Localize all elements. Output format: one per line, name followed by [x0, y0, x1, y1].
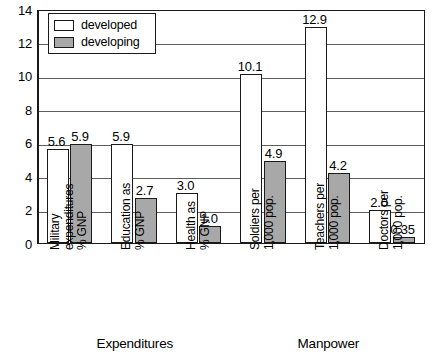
legend-label-developing: developing [81, 36, 139, 49]
legend-item-developing: developing [54, 35, 150, 50]
category-label-line: Soldiers per [249, 188, 263, 250]
category-label-line: 1,000 pop. [327, 183, 341, 250]
legend-label-developed: developed [81, 19, 137, 32]
bar-value-label: 10.1 [230, 60, 270, 73]
gridline [39, 145, 424, 146]
bar-value-label: 3.0 [166, 179, 206, 192]
category-label-line: 1,000 pop. [392, 190, 406, 250]
x-axis-group-label-1: Manpower [258, 336, 398, 351]
x-axis-group-label-0: Expenditures [65, 336, 205, 351]
x-axis-category-label-5: Doctors per1,000 pop. [378, 190, 405, 250]
x-axis-category-label-0: Militaryexpenditures% GNP [49, 184, 90, 250]
category-label-line: 1,000 pop. [263, 188, 277, 250]
gridline [39, 78, 424, 79]
legend: developed developing [48, 13, 156, 54]
category-label-line: Doctors per [378, 190, 392, 250]
category-label-line: % GNP [134, 183, 148, 250]
y-axis-tick-label: 2 [0, 204, 32, 217]
x-axis-category-label-3: Soldiers per1,000 pop. [249, 188, 276, 250]
bar-value-label: 4.9 [254, 147, 294, 160]
bar-value-label: 5.9 [60, 130, 100, 143]
bar-value-label: 12.9 [295, 13, 335, 26]
legend-item-developed: developed [54, 18, 150, 33]
y-axis-tick-label: 12 [0, 37, 32, 50]
category-label-line: Teachers per [314, 183, 328, 250]
category-label-line: Health as [185, 201, 199, 250]
category-label-line: % GNP [198, 201, 212, 250]
gridline [39, 178, 424, 179]
bar-chart: 02468101214 5.65.95.92.73.01.010.14.912.… [0, 0, 435, 359]
y-axis-tick-label: 8 [0, 104, 32, 117]
category-label-line: expenditures [63, 184, 77, 250]
category-label-line: Military [49, 184, 63, 250]
x-axis-category-label-2: Health as% GNP [185, 201, 212, 250]
y-axis-tick-label: 10 [0, 70, 32, 83]
x-axis-category-label-4: Teachers per1,000 pop. [314, 183, 341, 250]
legend-swatch-developed-icon [54, 20, 74, 31]
category-label-line: Education as [120, 183, 134, 250]
x-axis-category-label-1: Education as% GNP [120, 183, 147, 250]
gridline [39, 111, 424, 112]
bar-value-label: 5.9 [101, 130, 141, 143]
y-axis-tick-label: 6 [0, 137, 32, 150]
y-axis-tick-label: 0 [0, 238, 32, 251]
legend-swatch-developing-icon [54, 37, 74, 48]
category-label-line: % GNP [76, 184, 90, 250]
y-axis-tick-label: 4 [0, 171, 32, 184]
bar-value-label: 4.2 [318, 159, 358, 172]
y-axis-tick-label: 14 [0, 4, 32, 17]
gridline [39, 212, 424, 213]
